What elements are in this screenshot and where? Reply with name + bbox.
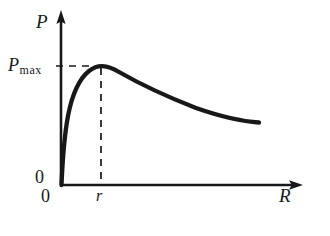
x-origin-zero-label: 0 [41,187,50,205]
r-tick-label: r [96,188,102,204]
y-origin-zero-label: 0 [35,168,44,186]
pmax-subscript: max [20,63,42,77]
power-vs-resistance-figure: P Pmax 0 0 r R [0,0,330,236]
pmax-base-symbol: P [8,55,19,75]
y-axis-label: P [36,12,48,31]
power-curve [62,66,260,185]
pmax-axis-tick-label: Pmax [8,56,42,76]
x-axis-label: R [279,186,291,205]
